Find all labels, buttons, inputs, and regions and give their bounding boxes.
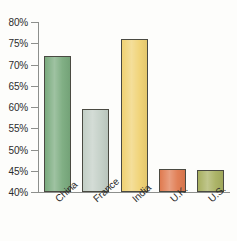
y-tick-label: 60% <box>0 102 28 113</box>
bar-india <box>121 39 148 192</box>
bar-sheen <box>45 57 70 191</box>
y-tick-mark <box>31 171 38 172</box>
y-tick-label: 40% <box>0 187 28 198</box>
y-tick-mark <box>31 192 38 193</box>
y-tick-label: 45% <box>0 165 28 176</box>
y-tick-label: 70% <box>0 59 28 70</box>
y-tick-label: 75% <box>0 38 28 49</box>
y-tick-mark <box>31 107 38 108</box>
bar-france <box>82 109 109 192</box>
y-tick-mark <box>31 22 38 23</box>
bar-china <box>44 56 71 192</box>
y-tick-label: 55% <box>0 123 28 134</box>
y-tick-mark <box>31 86 38 87</box>
y-tick-mark <box>31 150 38 151</box>
bar-sheen <box>122 40 147 191</box>
y-tick-label: 80% <box>0 17 28 28</box>
bar-chart: 40%45%50%55%60%65%70%75%80% ChinaFranceI… <box>0 0 237 241</box>
y-tick-mark <box>31 128 38 129</box>
bars-group <box>38 22 230 192</box>
y-tick-label: 65% <box>0 80 28 91</box>
y-tick-label: 50% <box>0 144 28 155</box>
bar-sheen <box>83 110 108 191</box>
y-tick-mark <box>31 65 38 66</box>
y-tick-mark <box>31 43 38 44</box>
